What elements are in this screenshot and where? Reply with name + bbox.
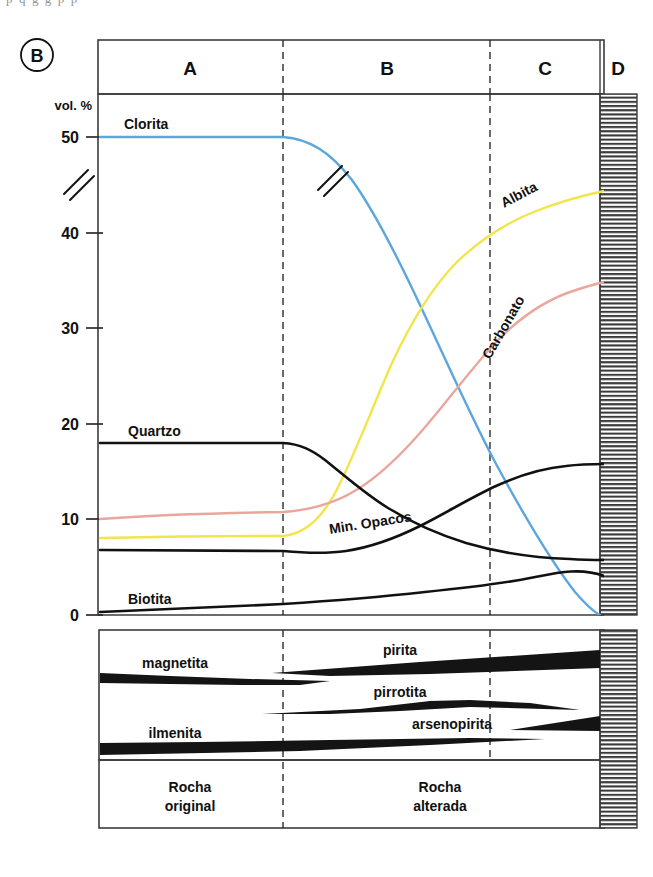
panel-letter-badge: B: [21, 39, 53, 71]
ore-label-pirrotita: pirrotita: [374, 684, 427, 700]
panel-letter-text: B: [31, 46, 44, 66]
y-tick-label-20: 20: [61, 416, 79, 433]
curves-group: [100, 137, 604, 615]
zone-header-bar: A B C D: [98, 40, 625, 94]
curve-min-opacos: [100, 464, 604, 553]
ore-panel: magnetita pirita pirrotita arsenopirita …: [99, 630, 637, 828]
curve-label-min-opacos: Min. Opacos: [328, 508, 413, 537]
y-tick-label-40: 40: [61, 225, 79, 242]
curve-label-clorita: Clorita: [124, 116, 169, 132]
ore-label-ilmenita: ilmenita: [149, 725, 202, 741]
ore-wedge-magnetita: [100, 673, 330, 685]
rock-state-original-line2: original: [165, 798, 216, 814]
scan-artifact-text: p q g g p p: [6, 0, 646, 7]
y-tick-label-30: 30: [61, 320, 79, 337]
ore-label-arsenopirita: arsenopirita: [412, 716, 492, 732]
y-axis-title: vol. %: [54, 98, 92, 113]
ore-label-pirita: pirita: [383, 642, 417, 658]
zone-header-c: C: [538, 58, 552, 79]
curve-label-biotita: Biotita: [128, 591, 172, 607]
ore-label-magnetita: magnetita: [142, 655, 208, 671]
zone-header-a: A: [183, 58, 197, 79]
y-tick-label-10: 10: [61, 511, 79, 528]
y-tick-label-0: 0: [70, 607, 79, 624]
y-axis: vol. % 50 40 30 20 10 0: [54, 98, 103, 624]
curve-albita: [100, 191, 604, 538]
rock-state-original-line1: Rocha: [169, 779, 212, 795]
figure-panel-b: p q g g p p B: [0, 0, 653, 877]
zone-header-b: B: [380, 58, 394, 79]
zone-header-d: D: [611, 58, 625, 79]
zone-d-hatch: [600, 94, 637, 615]
rock-state-altered-line1: Rocha: [419, 779, 462, 795]
scan-artifact-strip: p q g g p p: [0, 0, 653, 18]
curve-label-carbonato: Carbonato: [479, 293, 528, 362]
ore-zone-d-hatch: [600, 630, 637, 828]
ore-wedge-pirita: [272, 650, 600, 676]
ore-wedge-arsenopirita: [510, 716, 600, 731]
curve-quartzo: [100, 443, 604, 560]
chart-svg: B A B C D: [0, 0, 653, 877]
rock-state-altered-line2: alterada: [413, 798, 467, 814]
curve-label-quartzo: Quartzo: [128, 423, 181, 439]
y-axis-break-icon: [64, 170, 94, 200]
curve-label-albita: Albita: [498, 178, 540, 210]
y-tick-label-50: 50: [61, 129, 79, 146]
ore-wedge-pirrotita: [262, 700, 580, 714]
curve-biotita: [100, 571, 604, 612]
curve-clorita: [100, 137, 600, 615]
